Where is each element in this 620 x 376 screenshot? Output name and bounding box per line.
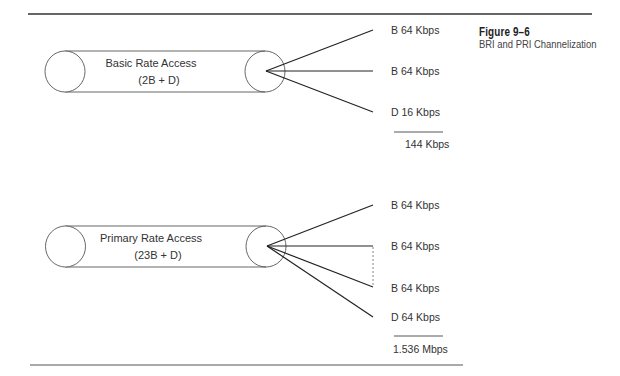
bri-left-circle	[45, 51, 85, 92]
channelization-diagram	[0, 0, 620, 376]
figure-caption: Figure 9–6 BRI and PRI Channelization	[479, 25, 620, 50]
bri-channel-lines	[266, 30, 373, 112]
pri-channel-3-label: B 64 Kbps	[391, 282, 439, 294]
bri-composition: (2B + D)	[138, 74, 179, 86]
pri-channel-1-label: B 64 Kbps	[391, 199, 439, 211]
figure-number: Figure 9–6	[479, 25, 596, 39]
pri-left-circle	[46, 226, 86, 267]
bri-name: Basic Rate Access	[105, 57, 196, 69]
pri-composition: (23B + D)	[134, 249, 181, 261]
bri-channel-3-label: D 16 Kbps	[391, 106, 440, 118]
bri-channel-2-label: B 64 Kbps	[391, 65, 439, 77]
bri-total: 144 Kbps	[405, 138, 449, 150]
pri-channel-2-label: B 64 Kbps	[391, 240, 439, 252]
bri-channel-1-label: B 64 Kbps	[391, 24, 439, 36]
pri-name: Primary Rate Access	[100, 232, 202, 244]
pri-total: 1.536 Mbps	[393, 343, 448, 355]
figure-title: BRI and PRI Channelization	[479, 38, 596, 50]
pri-channel-4-label: D 64 Kbps	[391, 311, 440, 323]
pri-channel-lines	[267, 205, 373, 317]
